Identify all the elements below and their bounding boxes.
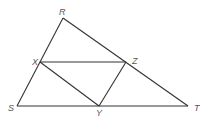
label-Y: Y	[96, 108, 103, 118]
label-T: T	[194, 103, 200, 113]
label-R: R	[59, 7, 66, 17]
label-X: X	[31, 57, 39, 67]
label-S: S	[8, 103, 14, 113]
label-Z: Z	[131, 56, 138, 66]
segment-XY	[40, 62, 99, 106]
triangle-diagram: R X Z S Y T	[0, 0, 200, 118]
segment-ZY	[99, 62, 126, 106]
